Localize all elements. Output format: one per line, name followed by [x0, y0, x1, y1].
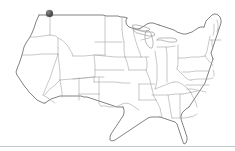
lake-michigan-outline: [145, 31, 153, 48]
border-ne-ia-mo: [125, 57, 129, 70]
border-mi-oh-in: [157, 46, 175, 47]
us-map-widget[interactable]: United States Map: [0, 0, 235, 151]
atlantic-coast-south-outline: [189, 59, 213, 107]
state-borders-group: [22, 16, 221, 118]
border-or-id: [50, 35, 58, 48]
border-nm-tx-south: [99, 94, 101, 106]
border-nd-mn: [122, 18, 124, 42]
border-la-ms: [156, 100, 162, 117]
border-sd-ne: [95, 55, 124, 57]
great-lakes-border: [126, 18, 159, 29]
border-ky-va-wv: [174, 82, 191, 93]
border-ar-ms: [152, 89, 156, 100]
new-england-coast-outline: [204, 14, 221, 29]
lake-erie-ontario-outline: [157, 38, 177, 42]
west-coast-outline: [16, 15, 45, 103]
border-mn-wi: [133, 28, 141, 57]
national-outline-group: [16, 14, 221, 144]
northeast-canada-border: [159, 25, 204, 34]
bottom-divider: [0, 146, 235, 147]
border-ms-al: [168, 95, 172, 118]
border-wv-va: [177, 69, 191, 80]
border-ok-tx: [101, 103, 139, 110]
border-ga-fl: [190, 114, 197, 117]
border-or-ca-nv: [22, 54, 58, 55]
border-wi-mi: [141, 36, 152, 40]
border-in-ky: [155, 82, 174, 89]
border-wa-or: [30, 35, 50, 37]
southern-border-outline: [45, 96, 123, 107]
border-mo-il: [146, 70, 152, 89]
border-ut-az: [60, 80, 62, 97]
border-nv-ut: [58, 54, 60, 80]
border-de-nj: [213, 70, 214, 76]
us-map-svg[interactable]: [0, 0, 235, 151]
border-nv-az: [45, 80, 60, 95]
border-nh-me: [217, 20, 218, 32]
border-wy-sd-ne: [94, 55, 95, 77]
border-ks-ok: [94, 82, 130, 83]
map-marker[interactable]: [46, 10, 53, 17]
border-ny-nj: [205, 56, 213, 66]
border-pa-ny: [178, 56, 205, 58]
texas-gulf-outline: [110, 107, 160, 141]
border-ia-il: [146, 57, 147, 70]
border-ct-ny: [212, 40, 213, 48]
border-ny-vt-ma: [205, 36, 210, 56]
border-pa-md: [182, 71, 209, 72]
border-il-in: [155, 51, 157, 89]
gulf-coast-outline: [160, 107, 189, 144]
border-va-md: [191, 78, 213, 80]
border-ca-az: [43, 95, 55, 103]
border-sd-mn-ia: [124, 42, 125, 57]
border-in-oh: [166, 47, 167, 82]
border-vt-nh: [213, 24, 214, 35]
border-wy-co: [73, 77, 104, 79]
border-oh-pa-wv: [177, 45, 178, 69]
border-id-mt-wy: [58, 38, 73, 56]
border-ky-tn: [152, 94, 183, 95]
